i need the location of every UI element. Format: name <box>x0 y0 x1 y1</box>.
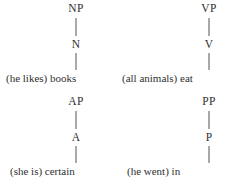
branch-vp-to-v <box>209 18 210 36</box>
node-label-v: V <box>205 38 214 50</box>
branch-a-to-terminal <box>76 146 77 163</box>
tree-vp: VP V (all animals) eat <box>120 0 240 93</box>
branch-p-to-terminal <box>209 146 210 163</box>
node-label-pp: PP <box>202 95 215 107</box>
node-label-vp: VP <box>201 2 216 14</box>
node-label-np: NP <box>68 2 83 14</box>
node-label-ap: AP <box>68 95 83 107</box>
node-label-n: N <box>72 38 81 50</box>
terminal-text-np: (he likes) books <box>6 72 76 85</box>
branch-v-to-terminal <box>209 53 210 70</box>
tree-ap: AP A (she is) certain <box>0 93 120 186</box>
terminal-text-pp: (he went) in <box>127 165 180 178</box>
branch-ap-to-a <box>76 111 77 129</box>
branch-pp-to-p <box>209 111 210 129</box>
branch-np-to-n <box>76 18 77 36</box>
terminal-text-ap: (she is) certain <box>10 165 75 178</box>
terminal-text-vp: (all animals) eat <box>122 72 193 85</box>
node-label-p: P <box>206 131 213 143</box>
branch-n-to-terminal <box>76 53 77 70</box>
phrase-structure-diagram: NP N (he likes) books VP V (all animals)… <box>0 0 241 186</box>
tree-np: NP N (he likes) books <box>0 0 120 93</box>
node-label-a: A <box>72 131 81 143</box>
tree-pp: PP P (he went) in <box>120 93 240 186</box>
